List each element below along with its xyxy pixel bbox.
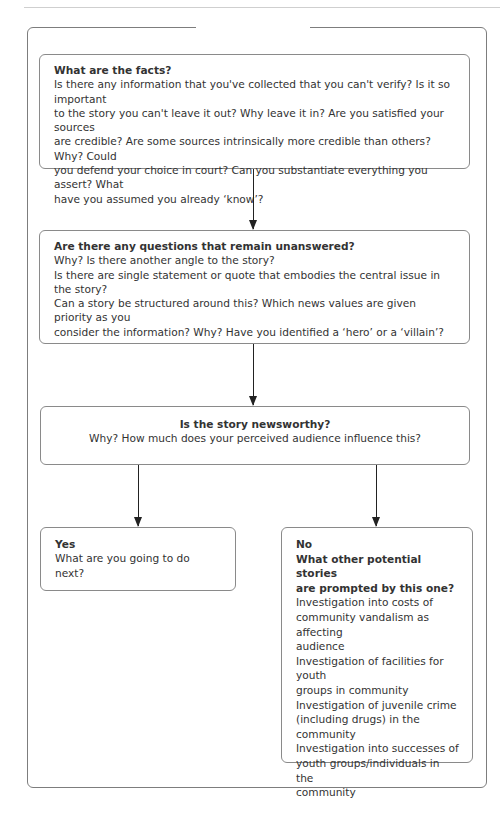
no-line: Investigation of juvenile crime bbox=[296, 698, 460, 713]
yes-line: What are you going to do next? bbox=[55, 551, 221, 580]
facts-line: you defend your choice in court? Can you… bbox=[54, 163, 455, 192]
no-line: Investigation into costs of bbox=[296, 595, 460, 610]
yes-box: Yes What are you going to do next? bbox=[40, 527, 236, 591]
no-line: audience bbox=[296, 639, 460, 654]
no-line: community bbox=[296, 785, 460, 800]
facts-box: What are the facts? Is there any informa… bbox=[39, 54, 470, 169]
no-line: youth groups/individuals in the bbox=[296, 756, 460, 785]
frame-title-gap bbox=[196, 25, 310, 30]
yes-title: Yes bbox=[55, 537, 221, 551]
no-subtitle: What other potential stories bbox=[296, 552, 460, 581]
facts-line: Is there any information that you've col… bbox=[54, 77, 455, 106]
no-line: Investigation of facilities for youth bbox=[296, 654, 460, 683]
arrow-down-icon bbox=[253, 169, 254, 229]
newsworthy-title: Is the story newsworthy? bbox=[51, 417, 459, 431]
questions-line: Can a story be structured around this? W… bbox=[54, 296, 455, 325]
no-box: No What other potential stories are prom… bbox=[281, 527, 473, 763]
no-line: community bbox=[296, 727, 460, 742]
facts-line: to the story you can't leave it out? Why… bbox=[54, 106, 455, 135]
no-subtitle: are prompted by this one? bbox=[296, 581, 460, 596]
arrow-down-icon bbox=[253, 344, 254, 405]
newsworthy-line: Why? How much does your perceived audien… bbox=[51, 431, 459, 445]
no-title: No bbox=[296, 537, 460, 552]
no-line: (including drugs) in the bbox=[296, 712, 460, 727]
page-header-rule bbox=[24, 7, 500, 8]
facts-line: have you assumed you already ‘know’? bbox=[54, 192, 455, 206]
questions-line: consider the information? Why? Have you … bbox=[54, 325, 455, 339]
arrow-down-icon bbox=[138, 465, 139, 526]
facts-title: What are the facts? bbox=[54, 63, 455, 77]
questions-line: Why? Is there another angle to the story… bbox=[54, 253, 455, 267]
no-line: groups in community bbox=[296, 683, 460, 698]
no-line: Investigation into successes of bbox=[296, 741, 460, 756]
questions-title: Are there any questions that remain unan… bbox=[54, 239, 455, 253]
arrow-down-icon bbox=[376, 465, 377, 526]
no-line: community vandalism as affecting bbox=[296, 610, 460, 639]
newsworthy-box: Is the story newsworthy? Why? How much d… bbox=[40, 406, 470, 465]
questions-box: Are there any questions that remain unan… bbox=[39, 230, 470, 344]
questions-line: Is there are single statement or quote t… bbox=[54, 268, 455, 297]
facts-line: are credible? Are some sources intrinsic… bbox=[54, 134, 455, 163]
